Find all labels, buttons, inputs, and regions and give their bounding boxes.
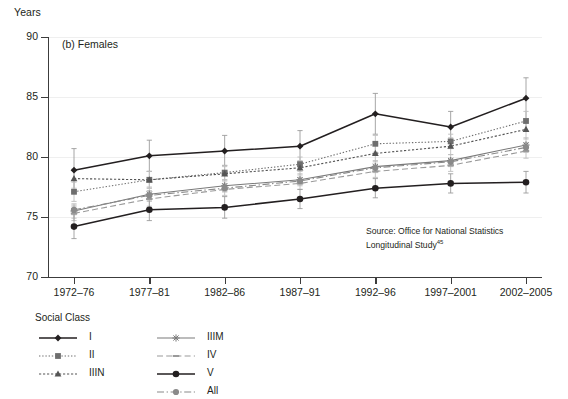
legend-label-ii: II [89, 349, 95, 360]
source-note: Source: Office for National Statistics L… [366, 226, 503, 251]
x-tick-label: 1982–86 [204, 286, 245, 298]
x-tick [375, 278, 376, 284]
y-tick-label: 70 [26, 270, 38, 282]
legend: Social Class IIIIIINIIIMIVVAll [33, 312, 293, 388]
source-reference: 45 [437, 239, 444, 245]
y-tick-label: 75 [26, 210, 38, 222]
y-tick-label: 85 [26, 90, 38, 102]
y-tick [41, 157, 48, 158]
legend-swatch-ii [33, 348, 85, 364]
legend-swatch-all [151, 384, 203, 399]
x-tick-label: 1997–2001 [424, 286, 477, 298]
x-tick [149, 278, 150, 284]
x-axis-line [48, 277, 542, 278]
y-tick [41, 97, 48, 98]
y-tick [41, 217, 48, 218]
x-tick [451, 278, 452, 284]
x-tick [225, 278, 226, 284]
y-tick [41, 277, 48, 278]
legend-swatch-iiin [33, 366, 85, 382]
legend-label-all: All [207, 385, 218, 396]
y-axis-title: Years [14, 6, 41, 18]
x-tick [300, 278, 301, 284]
legend-label-i: I [89, 331, 92, 342]
legend-title: Social Class [35, 312, 90, 323]
x-tick-label: 1977–81 [129, 286, 170, 298]
x-tick [526, 278, 527, 284]
x-tick-label: 1987–91 [280, 286, 321, 298]
x-tick-label: 2002–2005 [500, 286, 553, 298]
y-tick-label: 80 [26, 150, 38, 162]
x-tick [74, 278, 75, 284]
legend-label-iv: IV [207, 349, 216, 360]
x-tick-label: 1992–96 [355, 286, 396, 298]
legend-label-iiin: IIIN [89, 367, 105, 378]
source-line-2: Longitudinal Study45 [366, 237, 503, 251]
x-tick-label: 1972–76 [54, 286, 95, 298]
legend-label-v: V [207, 367, 214, 378]
legend-label-iiim: IIIM [207, 331, 224, 342]
y-tick-label: 90 [26, 30, 38, 42]
y-tick [41, 37, 48, 38]
legend-swatch-i [33, 330, 85, 346]
legend-swatch-v [151, 366, 203, 382]
legend-swatch-iiim [151, 330, 203, 346]
source-line-1: Source: Office for National Statistics [366, 226, 503, 237]
legend-swatch-iv [151, 348, 203, 364]
